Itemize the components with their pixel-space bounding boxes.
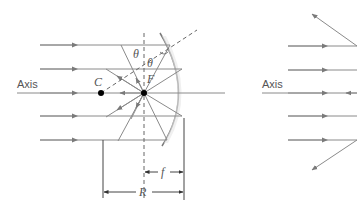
- incident-angle-label: θ: [133, 47, 139, 61]
- left-diagram: Axis C F θ θ f R: [17, 30, 225, 200]
- focal-point: [141, 90, 147, 96]
- right-axis-label: Axis: [262, 78, 283, 90]
- axis-label: Axis: [17, 78, 38, 90]
- right-diagram: Axis: [262, 14, 357, 170]
- focal-label: F: [146, 72, 155, 86]
- center-label: C: [94, 75, 103, 89]
- center-of-curvature-point: [98, 90, 104, 96]
- reflected-angle-label: θ: [147, 56, 153, 70]
- concave-mirror-diagram: Axis C F θ θ f R Axis: [0, 0, 357, 210]
- radius-label: R: [138, 185, 147, 199]
- focal-length-label: f: [161, 165, 166, 179]
